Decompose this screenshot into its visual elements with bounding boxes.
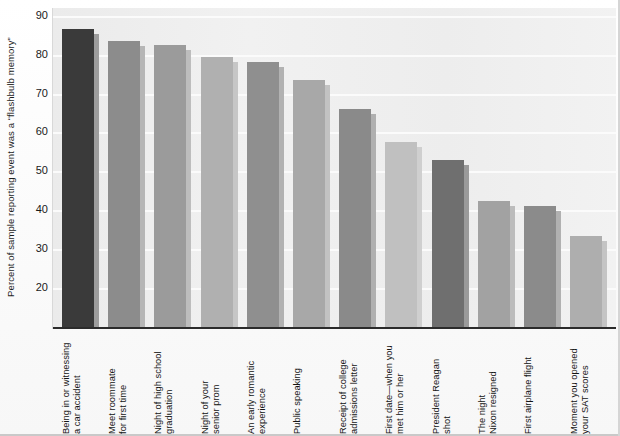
x-axis-line	[53, 327, 616, 329]
bar	[62, 29, 102, 327]
bar-face	[339, 109, 371, 327]
flashbulb-memory-bar-chart: Percent of sample reporting event was a …	[0, 0, 620, 436]
x-tick-label: President Reaganshot	[431, 334, 465, 434]
y-tick-label: 70	[22, 88, 48, 99]
bar	[108, 41, 148, 327]
x-tick-label: An early romanticexperience	[246, 334, 280, 434]
bar-face	[247, 62, 279, 327]
y-axis-line	[52, 8, 53, 329]
x-tick-label-line1: Public speaking	[292, 368, 302, 434]
x-tick-label-line2: Nixon resigned	[488, 334, 499, 434]
x-tick-label-line1: Night of high school	[153, 351, 163, 434]
bar	[201, 57, 241, 327]
bar	[385, 142, 425, 327]
x-tick-label-line1: Night of your	[200, 381, 210, 434]
x-tick-label-line1: The night	[477, 395, 487, 434]
x-tick-label: First airplane flight	[523, 334, 557, 434]
x-tick-label-line2: senior prom	[211, 334, 222, 434]
y-tick-label: 40	[22, 204, 48, 215]
x-tick-label-line1: Receipt of college	[338, 359, 348, 434]
bar	[570, 236, 610, 327]
bar-face	[62, 29, 94, 327]
y-tick-label: 80	[22, 49, 48, 60]
bar	[478, 201, 518, 327]
x-tick-label-line2: admissions letter	[349, 334, 360, 434]
y-tick-label: 20	[22, 282, 48, 293]
x-tick-label-line1: President Reagan	[431, 359, 441, 434]
x-tick-label-line1: First date—when you	[384, 345, 394, 434]
bar-face	[293, 80, 325, 327]
x-tick-label: First date—when youmet him or her	[384, 334, 418, 434]
bar-face	[570, 236, 602, 327]
x-tick-label: Receipt of collegeadmissions letter	[338, 334, 372, 434]
bar-face	[201, 57, 233, 327]
bar	[154, 45, 194, 327]
y-tick-label: 50	[22, 165, 48, 176]
bar	[432, 160, 472, 327]
bar-face	[385, 142, 417, 327]
x-tick-label-line2: graduation	[165, 334, 176, 434]
x-tick-label-line2: met him or her	[396, 334, 407, 434]
bar	[247, 62, 287, 327]
y-tick-label: 30	[22, 243, 48, 254]
gridline	[53, 16, 616, 18]
bar-face	[154, 45, 186, 327]
x-tick-label-line1: Meet roommate	[107, 368, 117, 434]
bar-face	[524, 206, 556, 327]
bar	[293, 80, 333, 327]
x-tick-label-line1: Moment you opened	[569, 348, 579, 434]
y-tick-label: 90	[22, 10, 48, 21]
bar-face	[108, 41, 140, 327]
x-tick-label: Moment you openedyour SAT scores	[569, 334, 603, 434]
x-tick-label-line2: a car accident	[72, 334, 83, 434]
plot-area	[53, 8, 616, 327]
x-tick-label-line2: shot	[442, 334, 453, 434]
x-tick-label: Night of high schoolgraduation	[153, 334, 187, 434]
x-tick-label-line1: First airplane flight	[523, 357, 533, 434]
bar	[524, 206, 564, 327]
bar	[339, 109, 379, 327]
x-tick-label-line1: An early romantic	[246, 361, 256, 434]
bar-face	[432, 160, 464, 327]
x-tick-label-line1: Being in or witnessing	[61, 342, 71, 434]
x-tick-label-line2: experience	[257, 334, 268, 434]
x-tick-label: Public speaking	[292, 334, 326, 434]
y-tick-label: 60	[22, 126, 48, 137]
x-tick-label: Meet roommatefor first time	[107, 334, 141, 434]
y-axis-title: Percent of sample reporting event was a …	[2, 2, 20, 332]
x-tick-label: Night of yoursenior prom	[200, 334, 234, 434]
bar-face	[478, 201, 510, 327]
x-tick-label: Being in or witnessinga car accident	[61, 334, 95, 434]
x-tick-label: The nightNixon resigned	[477, 334, 511, 434]
x-tick-label-line2: for first time	[118, 334, 129, 434]
x-tick-label-line2: your SAT scores	[580, 334, 591, 434]
